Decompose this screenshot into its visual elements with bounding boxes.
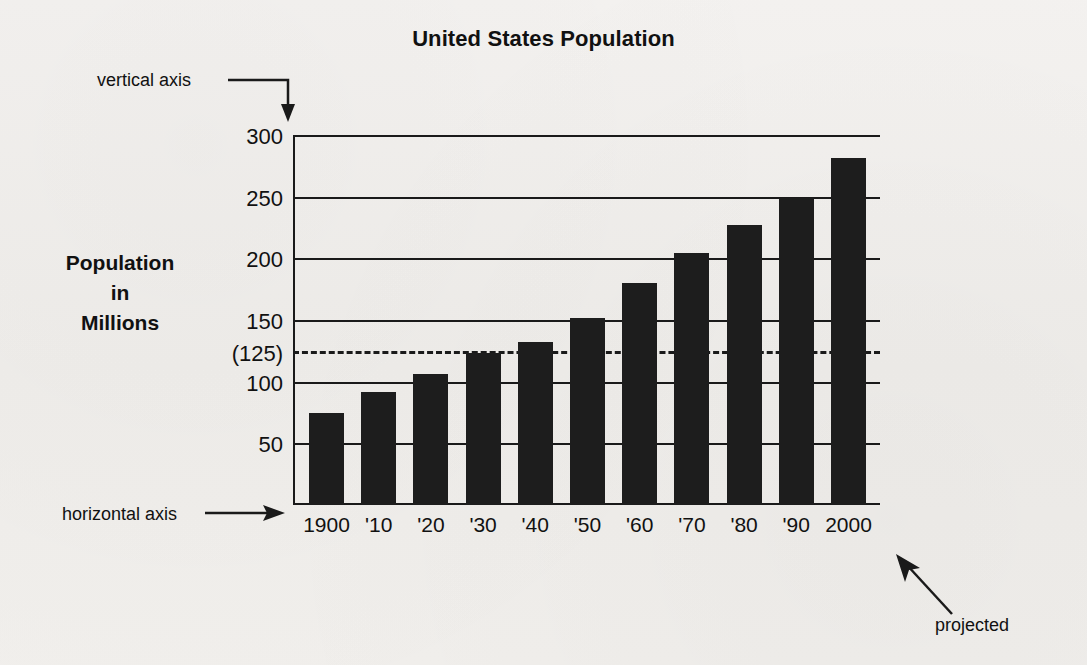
- bar: [727, 225, 762, 505]
- y-axis-tick-label: 250: [246, 186, 283, 212]
- bar: [622, 283, 657, 505]
- projected-callout-arrow-icon: [890, 552, 970, 622]
- y-axis-tick-label: 200: [246, 247, 283, 273]
- y-axis-tick-label: 50: [259, 432, 283, 458]
- y-axis-title-line-1: Population: [20, 248, 220, 278]
- bar: [831, 158, 866, 505]
- y-axis-title: Population in Millions: [20, 248, 220, 338]
- y-axis-title-line-3: Millions: [20, 308, 220, 338]
- y-axis-tick-label: 150: [246, 309, 283, 335]
- y-axis-tick-label: 100: [246, 371, 283, 397]
- chart-title: United States Population: [0, 26, 1087, 52]
- y-axis-tick-label: (125): [232, 341, 283, 367]
- x-axis-tick-label: 2000: [809, 513, 889, 537]
- plot-area: 300250200150(125)10050 1900'10'20'30'40'…: [293, 135, 880, 505]
- bar: [518, 342, 553, 505]
- gridline-300: 300: [293, 135, 880, 137]
- vertical-axis-callout-label: vertical axis: [97, 70, 191, 91]
- y-axis-tick-label: 300: [246, 124, 283, 150]
- vertical-axis-callout-arrow-icon: [228, 74, 308, 124]
- population-bar-chart: United States Population Population in M…: [0, 0, 1087, 665]
- y-axis-title-line-2: in: [20, 278, 220, 308]
- bar: [674, 253, 709, 505]
- horizontal-axis-callout-label: horizontal axis: [62, 504, 177, 525]
- horizontal-axis-callout-arrow-icon: [205, 503, 291, 523]
- bar: [466, 353, 501, 505]
- bar: [361, 392, 396, 505]
- bar: [413, 374, 448, 505]
- bar: [779, 198, 814, 505]
- bar: [309, 413, 344, 506]
- bar: [570, 318, 605, 505]
